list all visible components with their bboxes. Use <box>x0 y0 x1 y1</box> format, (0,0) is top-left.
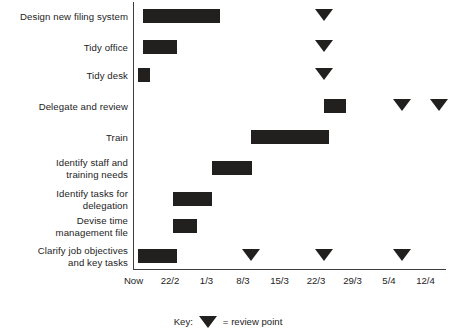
task-label: Identify tasks fordelegation <box>0 188 128 211</box>
down-triangle-icon <box>199 316 217 328</box>
task-label: Design new filing system <box>0 11 128 22</box>
task-label: Tidy desk <box>0 70 128 81</box>
legend-description: = review point <box>223 316 282 327</box>
x-axis-tick-label: 1/3 <box>200 274 213 287</box>
gantt-bar <box>212 161 252 175</box>
review-point-marker <box>242 249 260 261</box>
gantt-bar <box>143 9 221 23</box>
task-label-line: Tidy desk <box>0 70 128 81</box>
task-label-line: and key tasks <box>0 257 128 268</box>
task-label: Train <box>0 132 128 143</box>
x-axis-line <box>133 269 446 270</box>
task-label: Tidy office <box>0 42 128 53</box>
task-label-line: Identify staff and <box>0 157 128 168</box>
gantt-chart: Design new filing systemTidy officeTidy … <box>0 0 456 334</box>
gantt-bar <box>173 219 197 233</box>
chart-legend: Key: = review point <box>0 308 456 334</box>
review-point-marker <box>393 99 411 111</box>
x-axis-tick-label: 12/4 <box>416 274 435 287</box>
x-axis-tick-label: 15/3 <box>270 274 289 287</box>
x-axis-tick-label: 5/4 <box>382 274 395 287</box>
x-axis-tick-label: 29/3 <box>343 274 362 287</box>
gantt-bar <box>251 130 329 144</box>
task-label-column: Design new filing systemTidy officeTidy … <box>0 0 128 270</box>
review-point-marker <box>315 40 333 52</box>
review-point-marker <box>430 99 448 111</box>
x-axis-tick-label: 22/2 <box>161 274 180 287</box>
task-label-line: Devise time <box>0 215 128 226</box>
task-label-line: Clarify job objectives <box>0 245 128 256</box>
gantt-bar <box>143 40 177 54</box>
task-label: Identify staff andtraining needs <box>0 157 128 180</box>
gantt-bar <box>324 99 346 113</box>
task-label: Clarify job objectivesand key tasks <box>0 245 128 268</box>
gantt-bar <box>138 249 177 263</box>
task-label-line: Tidy office <box>0 42 128 53</box>
x-axis-tick-label: Now <box>124 274 143 287</box>
gantt-plot-area <box>133 0 456 270</box>
legend-key-label: Key: <box>174 316 193 327</box>
task-label-line: Delegate and review <box>0 101 128 112</box>
task-label-line: management file <box>0 227 128 238</box>
review-point-marker <box>315 68 333 80</box>
x-axis-tick-labels: Now22/21/38/315/322/329/35/412/4 <box>133 274 456 292</box>
gantt-bar <box>138 68 150 82</box>
task-label-line: delegation <box>0 200 128 211</box>
x-axis-tick-label: 8/3 <box>236 274 249 287</box>
task-label-line: Design new filing system <box>0 11 128 22</box>
review-point-marker <box>393 249 411 261</box>
task-label: Delegate and review <box>0 101 128 112</box>
x-axis-tick-label: 22/3 <box>307 274 326 287</box>
task-label: Devise timemanagement file <box>0 215 128 238</box>
task-label-line: Train <box>0 132 128 143</box>
y-axis-line <box>133 2 134 270</box>
gantt-bar <box>173 192 213 206</box>
task-label-line: training needs <box>0 169 128 180</box>
review-point-marker <box>315 9 333 21</box>
task-label-line: Identify tasks for <box>0 188 128 199</box>
review-point-marker <box>315 249 333 261</box>
